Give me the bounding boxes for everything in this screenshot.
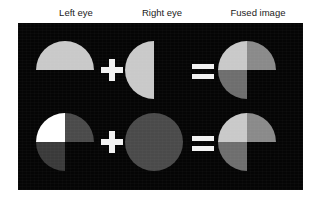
region-lower-left	[218, 70, 247, 99]
region-upper-right	[65, 113, 94, 142]
row-2-left-eye-stimulus	[36, 113, 94, 171]
region-lower-right	[247, 70, 276, 99]
region-upper-left	[218, 113, 247, 142]
region-upper-right	[247, 41, 276, 70]
left-half-disc	[125, 41, 183, 99]
equals-top-bar	[192, 64, 214, 69]
row-1-fused-image-stimulus	[218, 41, 276, 99]
three-quadrant-disc	[36, 113, 94, 171]
three-quadrant-disc	[218, 113, 276, 171]
plus-icon-row-1	[101, 59, 123, 81]
equals-icon-row-1	[192, 61, 214, 83]
row-1-right-eye-stimulus	[125, 41, 183, 99]
row-1-left-eye-stimulus	[36, 41, 94, 99]
equals-bottom-bar	[192, 146, 214, 151]
three-quadrant-disc	[218, 41, 276, 99]
region-lower-left	[36, 142, 65, 171]
region-upper-right	[247, 113, 276, 142]
region-lower-right	[247, 142, 276, 171]
equals-icon-row-2	[192, 133, 214, 155]
plus-icon-row-2	[101, 131, 123, 153]
equals-bottom-bar	[192, 74, 214, 79]
region-whole-disc	[125, 113, 183, 171]
column-label-fused-image: Fused image	[216, 6, 300, 20]
region-left-half	[125, 41, 154, 99]
region-lower-right	[65, 142, 94, 171]
full-disc	[125, 113, 183, 171]
equals-top-bar	[192, 136, 214, 141]
stimulus-panel	[18, 23, 303, 190]
upper-half-disc	[36, 41, 94, 99]
column-label-left-eye: Left eye	[40, 6, 112, 20]
row-2-right-eye-stimulus	[125, 113, 183, 171]
column-header-row: Left eye Right eye Fused image	[0, 6, 320, 22]
region-upper-left	[218, 41, 247, 70]
region-upper-half	[36, 41, 94, 70]
plus-vertical-bar	[109, 59, 115, 81]
plus-vertical-bar	[109, 131, 115, 153]
region-lower-left	[218, 142, 247, 171]
region-upper-left	[36, 113, 65, 142]
row-2-fused-image-stimulus	[218, 113, 276, 171]
column-label-right-eye: Right eye	[126, 6, 198, 20]
